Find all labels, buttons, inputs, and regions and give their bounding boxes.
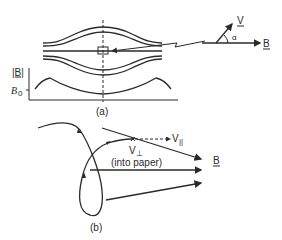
axis-label-b-magnitude: |B|	[12, 67, 24, 78]
v-perp-label: V	[129, 145, 136, 156]
field-label-a: B	[263, 38, 270, 49]
figure-canvas: |B| B 0 (a) V α B V || V ⊥ (into paper) …	[0, 0, 282, 240]
field-line-b-bottom	[106, 183, 201, 200]
panel-a-bfield-plot	[26, 68, 178, 100]
tick-label-b0-sub: 0	[18, 89, 23, 98]
caption-b: (b)	[90, 222, 102, 233]
v-parallel-sub: ||	[179, 137, 183, 146]
into-paper-label: (into paper)	[111, 157, 162, 168]
caption-a: (a)	[96, 106, 108, 117]
field-line-b-top	[102, 128, 201, 159]
particle-trajectory	[38, 123, 132, 216]
v-parallel-label: V	[172, 133, 179, 144]
alpha-label: α	[232, 33, 237, 42]
field-label-b: B	[213, 155, 220, 166]
velocity-label: V	[237, 15, 244, 26]
tick-label-b0: B	[11, 85, 17, 96]
inset-pitch-angle	[202, 24, 260, 43]
